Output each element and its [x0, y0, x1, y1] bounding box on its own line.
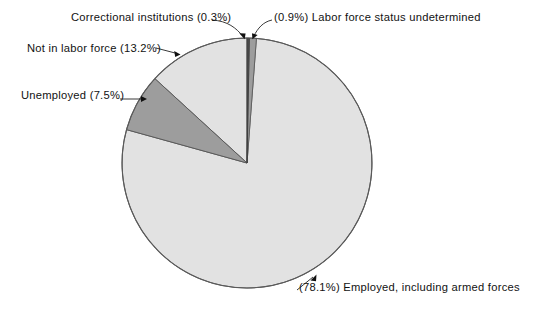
slice-label-correctional: Correctional institutions (0.3%) [71, 11, 231, 23]
slice-label-undetermined: (0.9%) Labor force status undetermined [274, 11, 481, 23]
pie-chart-figure: Correctional institutions (0.3%) (0.9%) … [0, 0, 539, 313]
slice-label-employed: (78.1%) Employed, including armed forces [299, 281, 520, 293]
slice-label-notinlabor: Not in labor force (13.2%) [27, 42, 161, 54]
leader-line-undetermined [254, 20, 272, 36]
leader-arrow-notinlabor [174, 51, 180, 57]
slice-label-unemployed: Unemployed (7.5%) [21, 89, 124, 101]
